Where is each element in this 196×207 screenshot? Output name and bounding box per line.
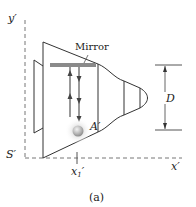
- mirror-label: Mirror: [75, 42, 109, 52]
- origin-label: S′: [6, 149, 16, 160]
- light-path-down-arrow: [77, 67, 82, 122]
- point-a-label: A′: [90, 121, 100, 132]
- light-clock-spaceship-diagram: y′ S′ x′ x1′ Mirror A′ D (a): [0, 0, 196, 207]
- x-axis-label: x′: [171, 161, 180, 172]
- x1-label-prime: ′: [82, 165, 85, 178]
- light-source-ball: [73, 126, 84, 137]
- x1-label: x1′: [71, 166, 84, 179]
- dimension-d-label: D: [166, 93, 175, 104]
- mirror: [50, 55, 96, 67]
- spaceship-nose: [98, 64, 148, 132]
- figure-caption: (a): [89, 192, 104, 203]
- y-axis-label: y′: [8, 13, 17, 24]
- rear-fin: [34, 60, 43, 133]
- light-path-up-arrow: [68, 67, 73, 117]
